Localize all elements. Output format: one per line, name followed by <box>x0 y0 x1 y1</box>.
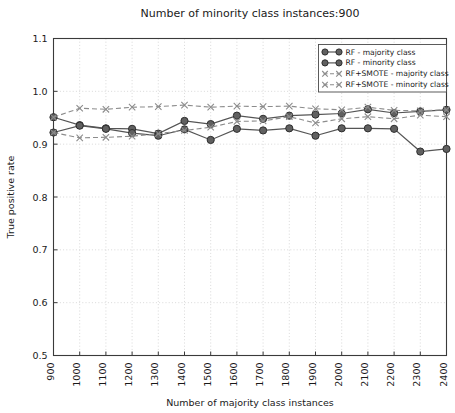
legend-item-label: RF - minority class <box>346 58 416 67</box>
data-point-marker <box>233 125 240 132</box>
legend-item-label: RF+SMOTE - minority class <box>346 80 449 89</box>
data-point-marker <box>181 117 188 124</box>
x-tick-label: 2100 <box>359 363 370 387</box>
legend-marker-sample <box>336 60 342 66</box>
data-point-marker <box>181 126 188 133</box>
x-tick-label: 1700 <box>254 363 265 387</box>
legend-marker-sample <box>322 49 328 55</box>
x-tick-label: 1000 <box>71 363 82 387</box>
x-tick-label: 2400 <box>438 363 449 387</box>
data-point-marker <box>286 112 293 119</box>
y-tick-label: 0.5 <box>32 350 47 361</box>
data-point-marker <box>76 122 83 129</box>
x-tick-label: 1500 <box>202 363 213 387</box>
x-tick-label: 2300 <box>411 363 422 387</box>
data-point-marker <box>312 132 319 139</box>
y-tick-label: 0.9 <box>32 139 47 150</box>
x-tick-label: 900 <box>45 363 56 381</box>
data-point-marker <box>260 127 267 134</box>
x-tick-label: 1400 <box>176 363 187 387</box>
legend-item-label: RF - majority class <box>346 48 416 57</box>
y-tick-label: 1.1 <box>32 33 47 44</box>
x-tick-label: 1800 <box>280 363 291 387</box>
legend-item-label: RF+SMOTE - majority class <box>346 69 449 78</box>
data-point-marker <box>417 148 424 155</box>
data-point-marker <box>338 125 345 132</box>
x-tick-label: 1300 <box>149 363 160 387</box>
x-tick-label: 1200 <box>123 363 134 387</box>
y-tick-label: 0.6 <box>32 297 47 308</box>
chart-title: Number of minority class instances:900 <box>141 7 360 20</box>
data-point-marker <box>102 125 109 132</box>
x-tick-label: 1100 <box>97 363 108 387</box>
data-point-marker <box>207 136 214 143</box>
data-point-marker <box>443 145 450 152</box>
x-axis-label: Number of majority class instances <box>166 397 334 408</box>
x-tick-label: 2000 <box>333 363 344 387</box>
y-axis-label: True positive rate <box>5 155 16 239</box>
x-tick-label: 2200 <box>385 363 396 387</box>
chart-figure: Number of minority class instances:900 0… <box>0 0 455 413</box>
chart-legend[interactable]: RF - majority classRF - minority classRF… <box>319 45 449 93</box>
x-tick-label: 1900 <box>307 363 318 387</box>
data-point-marker <box>286 125 293 132</box>
legend-marker-sample <box>336 49 342 55</box>
y-tick-label: 0.7 <box>32 244 47 255</box>
y-tick-label: 1.0 <box>32 86 47 97</box>
y-tick-label: 0.8 <box>32 192 47 203</box>
legend-marker-sample <box>322 60 328 66</box>
data-point-marker <box>391 125 398 132</box>
data-point-marker <box>364 125 371 132</box>
x-tick-label: 1600 <box>228 363 239 387</box>
